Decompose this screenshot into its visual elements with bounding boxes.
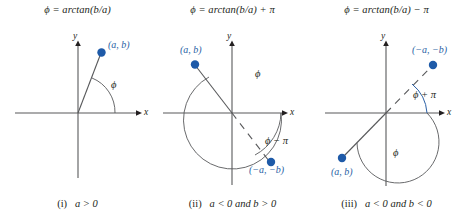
plot-case-iii (309, 0, 464, 219)
x-axis-arrow (136, 110, 142, 116)
angle-phi-plus-pi-label: ϕ + π (413, 89, 436, 100)
caption-index: (i) (57, 198, 67, 209)
point-ab-dot (97, 48, 105, 56)
panel-case-i: ϕ = arctan(b/a) y x (a, b) ϕ (i) a > 0 (0, 0, 155, 219)
y-axis-arrow (383, 41, 389, 47)
angle-phi-label: ϕ (255, 68, 260, 79)
point-ab-label: (a, b) (331, 166, 353, 177)
panel-case-iii: ϕ = arctan(b/a) − π y x (−a, −b) (a, b) … (309, 0, 464, 219)
x-axis-label: x (290, 107, 294, 117)
caption-condition: a < 0 and b < 0 (365, 198, 432, 209)
y-axis-label: y (227, 31, 231, 41)
x-axis-arrow (439, 110, 445, 116)
ray-to-point-ab (343, 113, 386, 157)
point-ab-label: (a, b) (180, 44, 202, 55)
y-axis-label: y (381, 31, 385, 41)
angle-phi-minus-pi-label: ϕ − π (265, 135, 288, 146)
panel-caption: (ii) a < 0 and b > 0 (155, 198, 310, 209)
x-axis-arrow (282, 110, 288, 116)
angle-phi-label: ϕ (393, 147, 398, 158)
plot-case-i (0, 0, 155, 219)
y-axis-arrow (75, 41, 81, 47)
point-ab-dot (338, 154, 346, 162)
panel-caption: (iii) a < 0 and b < 0 (309, 198, 464, 209)
panel-case-ii: ϕ = arctan(b/a) + π y x (a, b) (−a, −b) … (155, 0, 310, 219)
x-axis-label: x (144, 107, 148, 117)
caption-condition: a < 0 and b > 0 (210, 198, 277, 209)
ray-to-point-neg-ab-dashed (232, 113, 269, 161)
angle-phi-label: ϕ (111, 79, 116, 90)
point-ab-label: (a, b) (108, 39, 130, 50)
y-axis-label: y (73, 31, 77, 41)
point-ab-dot (191, 60, 199, 68)
point-neg-ab-label: (−a, −b) (249, 164, 284, 175)
panel-caption: (i) a > 0 (0, 198, 155, 209)
x-axis-label: x (447, 107, 451, 117)
arctangent-branches-figure: ϕ = arctan(b/a) y x (a, b) ϕ (i) a > 0 ϕ… (0, 0, 464, 219)
ray-to-point-ab (195, 65, 232, 113)
caption-index: (iii) (341, 198, 357, 209)
point-neg-ab-label: (−a, −b) (412, 44, 447, 55)
y-axis-arrow (229, 41, 235, 47)
caption-condition: a > 0 (75, 198, 98, 209)
plot-case-ii (155, 0, 310, 219)
caption-index: (ii) (189, 198, 202, 209)
ray-to-point-ab (78, 53, 101, 113)
point-neg-ab-dot (429, 61, 437, 69)
